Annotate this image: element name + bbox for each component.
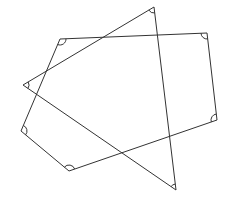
overlapping-polygons-figure [0,0,231,203]
triangle-angle-arc [171,184,175,187]
triangle-angle-arc [28,82,29,88]
triangle-angle-arc [149,10,155,13]
shapes-layer [21,7,217,190]
triangle-outline [23,7,176,190]
diagram-canvas [0,0,231,203]
